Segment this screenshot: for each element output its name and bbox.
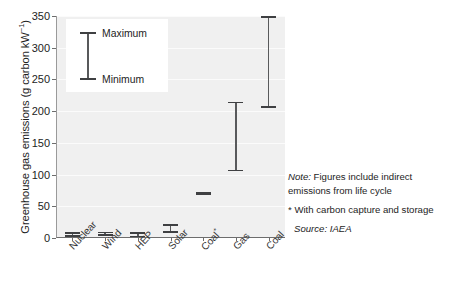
y-tick-label: 200	[16, 105, 50, 117]
range-marker	[257, 16, 281, 108]
legend-min-cap-icon	[80, 78, 96, 80]
note-line-1: Note: Figures include indirect	[288, 170, 448, 183]
source-note: Source: IAEA	[294, 222, 448, 235]
range-max-cap	[261, 16, 276, 18]
y-tick-mark	[52, 143, 56, 144]
gridline	[57, 111, 285, 112]
gridline	[57, 206, 285, 207]
range-min-cap	[228, 170, 243, 172]
range-stem	[268, 16, 270, 108]
gridline	[57, 16, 285, 17]
legend-max-cap-icon	[80, 32, 96, 34]
y-tick-mark	[52, 111, 56, 112]
note-prefix: Note:	[288, 171, 311, 182]
range-max-cap	[228, 102, 243, 104]
range-marker	[191, 192, 215, 195]
gridline	[57, 175, 285, 176]
note-line1-text: Figures include indirect	[311, 171, 412, 182]
y-tick-mark	[52, 48, 56, 49]
y-tick-label: 250	[16, 73, 50, 85]
range-max-cap	[163, 224, 178, 226]
y-tick-mark	[52, 16, 56, 17]
range-min-cap	[196, 194, 211, 196]
y-tick-label: 50	[16, 200, 50, 212]
y-tick-mark	[52, 175, 56, 176]
legend-min-label: Minimum	[102, 74, 144, 85]
y-tick-mark	[52, 206, 56, 207]
y-tick-label: 350	[16, 10, 50, 22]
y-tick-mark	[52, 238, 56, 239]
y-axis-title-exponent: −1	[17, 24, 26, 32]
range-min-cap	[261, 106, 276, 108]
y-tick-mark	[52, 79, 56, 80]
star-note: * With carbon capture and storage	[288, 203, 448, 216]
note-line-2: emissions from life cycle	[288, 184, 448, 197]
y-tick-label: 300	[16, 42, 50, 54]
range-stem	[235, 102, 237, 172]
gridline	[57, 143, 285, 144]
chart-figure: Greenhouse gas emissions (g carbon kW−1)…	[0, 0, 449, 288]
legend: Maximum Minimum	[66, 19, 168, 92]
legend-max-label: Maximum	[102, 28, 147, 39]
notes-block: Note: Figures include indirect emissions…	[288, 170, 448, 236]
y-tick-label: 0	[16, 232, 50, 244]
y-tick-label: 150	[16, 137, 50, 149]
range-marker	[224, 102, 248, 172]
y-tick-label: 100	[16, 169, 50, 181]
legend-range-stem	[87, 33, 89, 79]
